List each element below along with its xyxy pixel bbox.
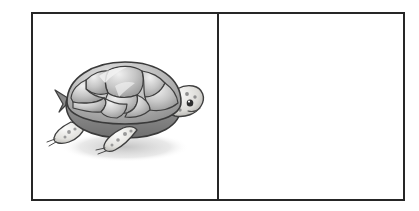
tortoise-illustration (41, 50, 211, 170)
head-spot (185, 92, 189, 96)
two-panel-frame (31, 12, 405, 201)
head-spot (193, 95, 196, 98)
leg-spot (129, 129, 132, 132)
eye-shape (187, 99, 194, 106)
blank-drawing-area[interactable] (219, 14, 403, 199)
blank-answer-panel[interactable] (219, 14, 403, 199)
leg-spot (111, 144, 114, 147)
worksheet-root (0, 0, 419, 211)
leg-spot (116, 138, 120, 142)
leg-spot (123, 132, 127, 136)
picture-panel[interactable] (33, 14, 219, 199)
